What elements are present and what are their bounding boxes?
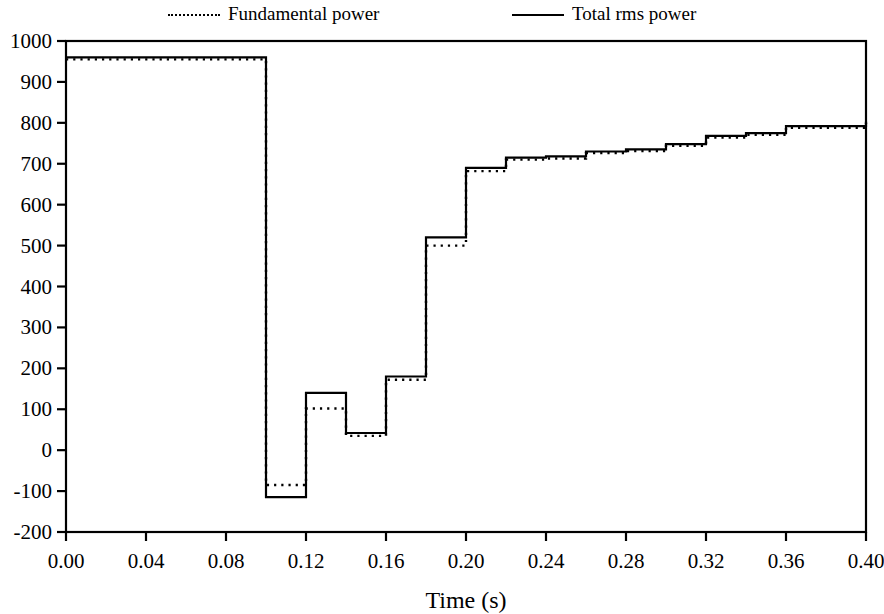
x-axis-tick-label: 0.20	[448, 549, 485, 573]
y-axis-tick-label: 700	[21, 152, 53, 176]
x-axis-title: Time (s)	[425, 587, 506, 613]
x-axis-tick-label: 0.24	[528, 549, 565, 573]
data-series-layer	[66, 57, 866, 497]
y-axis-tick-label: 0	[42, 438, 53, 462]
series-line-total-rms-power	[66, 57, 866, 497]
x-axis-tick-label: 0.16	[368, 549, 405, 573]
y-axis-ticks	[57, 41, 66, 532]
chart-figure: Fundamental power Total rms power -200-1…	[0, 0, 884, 614]
y-axis-tick-label: 600	[21, 193, 53, 217]
solid-line-swatch-icon	[512, 9, 564, 19]
series-line-fundamental-power	[66, 59, 866, 485]
chart-legend: Fundamental power Total rms power	[0, 0, 884, 34]
legend-label-total-rms-power: Total rms power	[572, 4, 696, 23]
x-axis-tick-label: 0.36	[768, 549, 805, 573]
y-axis-tick-label: 400	[21, 275, 53, 299]
y-axis-tick-label: 200	[21, 356, 53, 380]
y-axis-tick-label: -100	[14, 479, 53, 503]
y-axis-tick-label: 500	[21, 234, 53, 258]
x-axis-tick-label: 0.08	[208, 549, 245, 573]
x-axis-tick-label: 0.28	[608, 549, 645, 573]
y-axis-tick-label: -200	[14, 520, 53, 544]
x-axis-tick-label: 0.00	[48, 549, 85, 573]
plot-area: -200-10001002003004005006007008009001000…	[0, 34, 884, 614]
y-axis-tick-label: 800	[21, 111, 53, 135]
y-axis-tick-label: 900	[21, 70, 53, 94]
x-axis-tick-label: 0.40	[848, 549, 884, 573]
x-axis-ticks	[66, 532, 866, 541]
legend-label-fundamental-power: Fundamental power	[228, 4, 379, 23]
x-axis-tick-labels: 0.000.040.080.120.160.200.240.280.320.36…	[48, 549, 884, 573]
x-axis-tick-label: 0.12	[288, 549, 325, 573]
y-axis-tick-labels: -200-10001002003004005006007008009001000	[10, 34, 52, 544]
x-axis-tick-label: 0.04	[128, 549, 165, 573]
chart-canvas: -200-10001002003004005006007008009001000…	[0, 34, 884, 614]
legend-item-total-rms-power: Total rms power	[512, 4, 696, 23]
legend-item-fundamental-power: Fundamental power	[168, 4, 379, 23]
x-axis-tick-label: 0.32	[688, 549, 725, 573]
y-axis-tick-label: 300	[21, 315, 53, 339]
plot-frame	[66, 41, 866, 532]
y-axis-tick-label: 1000	[10, 34, 52, 53]
y-axis-tick-label: 100	[21, 397, 53, 421]
dotted-line-swatch-icon	[168, 9, 220, 19]
